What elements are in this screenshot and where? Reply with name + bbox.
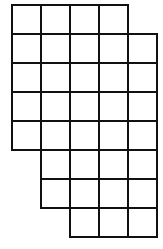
grid-cell bbox=[98, 120, 129, 151]
grid-cell bbox=[69, 207, 100, 238]
grid-cell bbox=[11, 4, 42, 35]
grid-cell bbox=[69, 178, 100, 209]
grid-cell bbox=[40, 91, 71, 122]
grid-cell bbox=[127, 149, 158, 180]
grid-cell bbox=[69, 4, 100, 35]
grid-cell bbox=[127, 33, 158, 64]
grid-cell bbox=[98, 178, 129, 209]
grid-cell bbox=[40, 149, 71, 180]
grid-cell bbox=[127, 91, 158, 122]
grid-cell bbox=[127, 207, 158, 238]
grid-cell bbox=[69, 33, 100, 64]
grid-cell bbox=[98, 149, 129, 180]
grid-cell bbox=[11, 120, 42, 151]
grid-cell bbox=[69, 149, 100, 180]
grid-cell bbox=[98, 91, 129, 122]
grid-cell bbox=[40, 120, 71, 151]
grid-cell bbox=[11, 33, 42, 64]
grid-cell bbox=[69, 91, 100, 122]
grid-cell bbox=[98, 33, 129, 64]
grid-cell bbox=[127, 178, 158, 209]
grid-cell bbox=[11, 91, 42, 122]
grid-cell bbox=[69, 62, 100, 93]
grid-cell bbox=[40, 62, 71, 93]
grid-cell bbox=[98, 62, 129, 93]
grid-cell bbox=[40, 178, 71, 209]
grid-cell bbox=[98, 4, 129, 35]
grid-cell bbox=[98, 207, 129, 238]
grid-cell bbox=[127, 62, 158, 93]
grid-cell bbox=[69, 120, 100, 151]
grid-cell bbox=[11, 62, 42, 93]
grid-cell bbox=[40, 33, 71, 64]
grid-cell bbox=[40, 4, 71, 35]
grid-cell bbox=[127, 120, 158, 151]
